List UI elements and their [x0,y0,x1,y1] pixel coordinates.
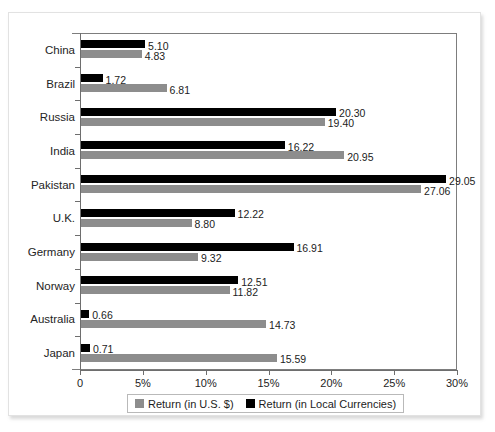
bar-local-germany [81,243,294,251]
chart-figure: China5.104.83Brazil1.726.81Russia20.3019… [0,0,495,432]
bar-local-japan [81,344,90,352]
legend-label-local: Return (in Local Currencies) [259,398,397,410]
bar-value-local: 12.22 [238,209,264,219]
category-label-pakistan: Pakistan [0,179,75,191]
bar-usd-china [81,50,142,58]
bar-value-usd: 8.80 [195,219,215,229]
legend-swatch-local-icon [246,399,255,408]
table-row: India16.2220.95 [9,134,495,168]
bar-local-uk [81,209,235,217]
category-label-germany: Germany [0,246,75,258]
table-row: Australia0.6614.73 [9,303,495,337]
bar-value-usd: 14.73 [269,320,295,330]
bar-local-india [81,141,285,149]
bar-value-local: 29.05 [449,176,475,186]
bar-local-russia [81,108,336,116]
bar-usd-brazil [81,84,167,92]
table-row: Russia20.3019.40 [9,100,495,134]
x-axis-tick [269,370,270,375]
table-row: Germany16.919.32 [9,235,495,269]
x-axis-label: 20% [311,377,351,390]
bar-usd-australia [81,320,266,328]
bar-usd-russia [81,118,325,126]
bar-value-local: 16.91 [297,243,323,253]
x-axis-label: 10% [186,377,226,390]
bar-value-usd: 4.83 [145,51,165,61]
category-label-china: China [0,44,75,56]
bar-value-local: 16.22 [288,142,314,152]
table-row: Norway12.5111.82 [9,269,495,303]
bar-local-pakistan [81,175,446,183]
bar-value-usd: 19.40 [328,118,354,128]
bar-local-norway [81,276,238,284]
bar-value-local: 0.66 [92,310,112,320]
table-row: U.K.12.228.80 [9,202,495,236]
bar-value-usd: 15.59 [280,354,306,364]
bar-local-china [81,40,145,48]
x-axis-label: 30% [437,377,477,390]
bar-usd-india [81,151,344,159]
table-row: Japan0.7115.59 [9,336,495,370]
x-axis-tick [331,370,332,375]
bar-value-usd: 20.95 [347,152,373,162]
x-axis-tick [457,370,458,375]
x-axis-tick [206,370,207,375]
x-axis-label: 0 [60,377,100,390]
bar-value-local: 0.71 [93,344,113,354]
bar-value-usd: 9.32 [201,253,221,263]
bar-usd-norway [81,286,230,294]
x-axis-tick [394,370,395,375]
category-label-japan: Japan [0,347,75,359]
bar-usd-germany [81,253,198,261]
table-row: Pakistan29.0527.06 [9,168,495,202]
x-axis-tick [143,370,144,375]
legend-item-usd[interactable]: Return (in U.S. $) [135,398,234,410]
x-axis-label: 25% [374,377,414,390]
category-label-brazil: Brazil [0,78,75,90]
table-row: China5.104.83 [9,33,495,67]
category-label-russia: Russia [0,111,75,123]
category-label-uk: U.K. [0,212,75,224]
bar-local-brazil [81,74,103,82]
legend-swatch-usd-icon [135,399,144,408]
table-row: Brazil1.726.81 [9,67,495,101]
bar-local-australia [81,310,89,318]
bar-usd-pakistan [81,185,421,193]
category-label-norway: Norway [0,280,75,292]
x-axis-label: 5% [123,377,163,390]
bar-usd-japan [81,354,277,362]
bar-usd-uk [81,219,192,227]
x-axis-tick [80,370,81,375]
bar-value-usd: 6.81 [170,85,190,95]
bar-value-usd: 27.06 [424,186,450,196]
x-axis-label: 15% [249,377,289,390]
legend-item-local[interactable]: Return (in Local Currencies) [246,398,397,410]
chart-card: China5.104.83Brazil1.726.81Russia20.3019… [8,12,481,416]
bar-value-usd: 11.82 [233,287,259,297]
bar-value-local: 1.72 [106,75,126,85]
category-label-india: India [0,145,75,157]
chart-legend: Return (in U.S. $) Return (in Local Curr… [127,394,404,413]
category-label-australia: Australia [0,313,75,325]
legend-label-usd: Return (in U.S. $) [148,398,234,410]
